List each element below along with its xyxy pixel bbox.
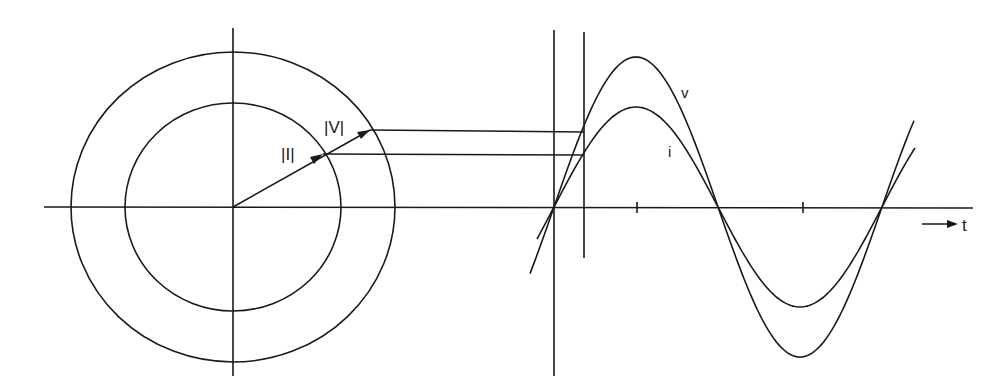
phasor-waveform-diagram: |V| |I| v i t [0, 0, 1005, 391]
voltage-waveform-label: v [681, 84, 689, 101]
arrowhead-icon [947, 220, 958, 228]
voltage-phasor-arrow [233, 130, 370, 207]
current-projection-line [323, 154, 584, 155]
voltage-projection-line [370, 130, 584, 132]
phasor-diagram: |V| |I| [71, 28, 395, 376]
voltage-magnitude-label: |V| [324, 118, 344, 137]
waveform-plot: v i t [530, 30, 967, 376]
current-waveform-label: i [668, 143, 671, 160]
time-axis-label: t [962, 216, 967, 235]
voltage-arrowhead-icon [357, 130, 370, 139]
time-axis [44, 207, 973, 208]
current-magnitude-label: |I| [281, 145, 295, 164]
